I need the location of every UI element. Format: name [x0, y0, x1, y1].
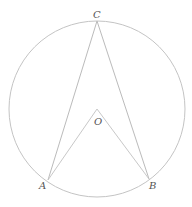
label-c: C: [93, 9, 101, 20]
segment-cb: [97, 21, 149, 179]
segment-ob: [97, 109, 149, 179]
geometry-diagram: C O A B: [0, 0, 192, 207]
label-o: O: [94, 116, 102, 127]
segment-ca: [48, 21, 97, 180]
segment-oa: [48, 109, 97, 180]
label-b: B: [148, 180, 156, 191]
label-a: A: [38, 180, 46, 191]
